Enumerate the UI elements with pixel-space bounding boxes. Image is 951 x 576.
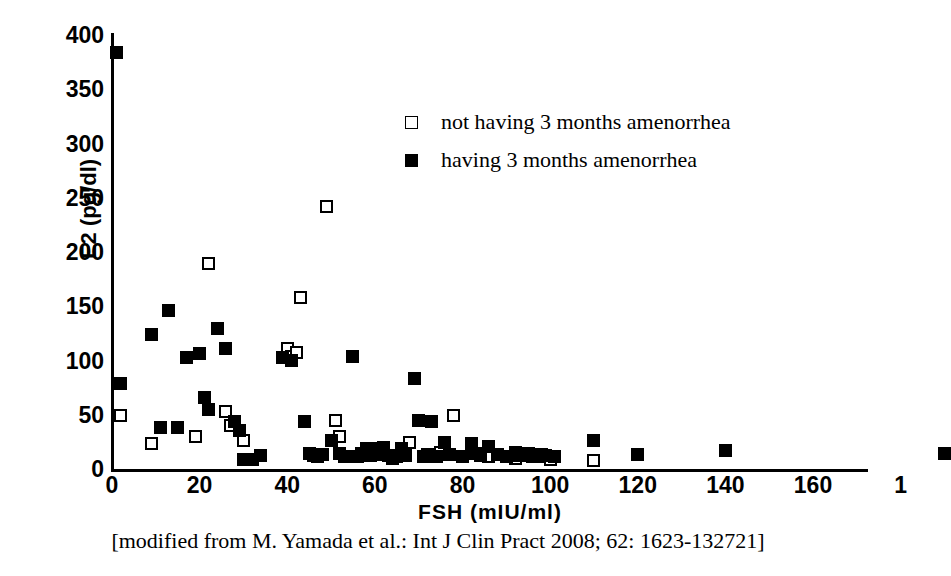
data-point-having (162, 304, 175, 317)
data-point-not-having (329, 414, 342, 427)
y-tick-label: 100 (40, 350, 104, 373)
x-tick-label: 160 (783, 474, 843, 497)
data-point-having (298, 415, 311, 428)
x-tick-label: 20 (170, 474, 230, 497)
legend: not having 3 months amenorrhea having 3 … (405, 103, 825, 179)
data-point-having (399, 449, 412, 462)
x-axis-line (111, 469, 868, 472)
data-point-having (145, 328, 158, 341)
legend-item-not-having: not having 3 months amenorrhea (405, 103, 825, 141)
legend-item-having: having 3 months amenorrhea (405, 141, 825, 179)
legend-label-having: having 3 months amenorrhea (441, 149, 697, 171)
y-tick-label: 350 (40, 78, 104, 101)
data-point-having (719, 444, 732, 457)
x-tick-label: 100 (520, 474, 580, 497)
data-point-having (430, 450, 443, 463)
data-point-having (202, 403, 215, 416)
data-point-having (219, 342, 232, 355)
data-point-having (171, 421, 184, 434)
data-point-having (443, 448, 456, 461)
data-point-having (154, 421, 167, 434)
data-point-having (548, 450, 561, 463)
x-tick-label: 120 (608, 474, 668, 497)
data-point-having (456, 450, 469, 463)
x-tick-label: 60 (345, 474, 405, 497)
data-point-having (425, 415, 438, 428)
data-point-having (316, 448, 329, 461)
x-tick-label: 80 (433, 474, 493, 497)
data-point-having (587, 434, 600, 447)
data-point-not-having (587, 454, 600, 467)
y-axis-title: E2 (pg/dl) (76, 114, 102, 304)
data-point-having (233, 424, 246, 437)
data-point-having (110, 46, 123, 59)
data-point-not-having (145, 437, 158, 450)
legend-label-not-having: not having 3 months amenorrhea (441, 111, 731, 133)
data-point-not-having (447, 409, 460, 422)
data-point-not-having (114, 409, 127, 422)
x-tick-label: 1 (871, 474, 931, 497)
filled-square-icon (405, 154, 418, 167)
y-tick-label: 50 (40, 404, 104, 427)
data-point-having (346, 350, 359, 363)
data-point-having (338, 450, 351, 463)
data-point-not-having (320, 200, 333, 213)
figure-caption: [modified from M. Yamada et al.: Int J C… (0, 528, 876, 554)
data-point-having (211, 322, 224, 335)
data-point-having (631, 448, 644, 461)
data-point-having (938, 447, 951, 460)
data-point-having (193, 347, 206, 360)
x-tick-label: 0 (82, 474, 142, 497)
x-tick-label: 140 (695, 474, 755, 497)
y-axis-line (111, 33, 114, 472)
data-point-having (114, 377, 127, 390)
data-point-having (180, 351, 193, 364)
data-point-having (408, 372, 421, 385)
y-tick-label: 400 (40, 24, 104, 47)
data-point-having (325, 434, 338, 447)
data-point-not-having (189, 430, 202, 443)
data-point-having (412, 414, 425, 427)
x-tick-label: 40 (257, 474, 317, 497)
x-axis-title: FSH (mIU/ml) (112, 500, 868, 524)
data-point-having (285, 354, 298, 367)
data-point-having (254, 449, 267, 462)
data-point-not-having (202, 257, 215, 270)
open-square-icon (405, 116, 418, 129)
data-point-not-having (294, 291, 307, 304)
data-point-having (417, 450, 430, 463)
